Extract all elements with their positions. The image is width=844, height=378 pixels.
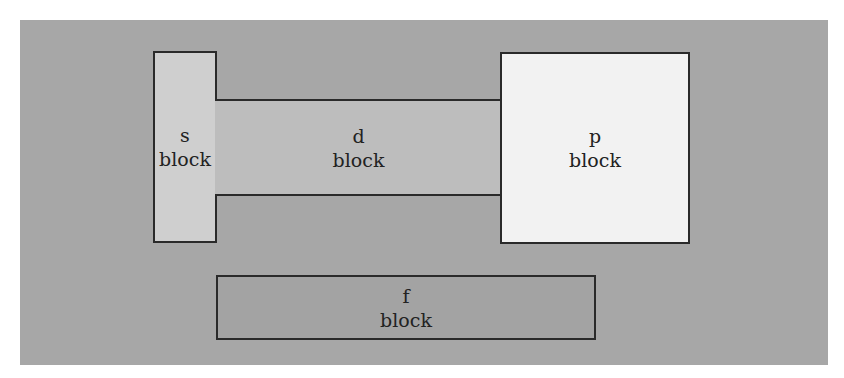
f-block-letter: f [402,284,409,308]
s-block-letter: s [180,123,190,147]
d-block: d block [215,99,502,196]
p-block-label: block [569,148,621,172]
p-block: p block [500,52,690,244]
s-block: s block [153,51,217,243]
f-block-label: block [380,308,432,332]
d-block-letter: d [352,124,364,148]
d-block-label: block [333,148,385,172]
p-block-letter: p [589,124,601,148]
f-block: f block [216,275,596,340]
s-block-label: block [159,147,211,171]
